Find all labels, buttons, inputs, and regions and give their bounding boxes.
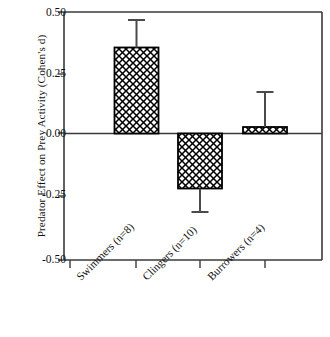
y-axis-tick-label-4: -0.50 — [20, 253, 66, 265]
y-axis-tick-label-0: 0.50 — [20, 6, 66, 18]
y-axis-tick-label-1: 0.25 — [20, 67, 66, 79]
chart-figure: Predator Effect on Prey Activity (Cohen'… — [0, 0, 330, 337]
chart-plot-area — [0, 0, 330, 337]
bar-clingers — [178, 134, 222, 213]
y-axis-tick-label-2: 0.00 — [20, 127, 66, 139]
y-axis-tick-label-3: -0.25 — [20, 188, 66, 200]
bar-burrowers — [243, 92, 287, 134]
bar-swimmers — [115, 20, 159, 134]
